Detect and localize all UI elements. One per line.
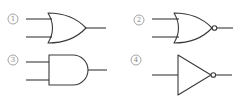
- option-4[interactable]: 4: [131, 55, 232, 95]
- not-gate-icon: [152, 55, 232, 95]
- option-label-2: 2: [134, 15, 144, 25]
- logic-gates-diagram: 1 2 3: [0, 0, 239, 101]
- svg-text:4: 4: [134, 56, 139, 64]
- inversion-bubble-icon: [212, 26, 217, 31]
- not-gate-body: [178, 55, 211, 95]
- option-label-3: 3: [8, 55, 18, 65]
- option-label-1: 1: [8, 14, 18, 24]
- or-gate-body: [48, 13, 86, 43]
- svg-text:2: 2: [137, 16, 141, 24]
- inversion-bubble-icon: [211, 73, 216, 78]
- svg-text:1: 1: [11, 15, 15, 23]
- option-2[interactable]: 2: [134, 13, 233, 43]
- and-gate-icon: [26, 55, 107, 85]
- svg-text:3: 3: [11, 56, 15, 64]
- and-gate-body: [49, 55, 88, 85]
- option-3[interactable]: 3: [8, 55, 107, 85]
- nor-gate-icon: [152, 13, 233, 43]
- option-1[interactable]: 1: [8, 13, 106, 43]
- nor-gate-body: [174, 13, 212, 43]
- option-label-4: 4: [131, 55, 141, 65]
- or-gate-icon: [26, 13, 106, 43]
